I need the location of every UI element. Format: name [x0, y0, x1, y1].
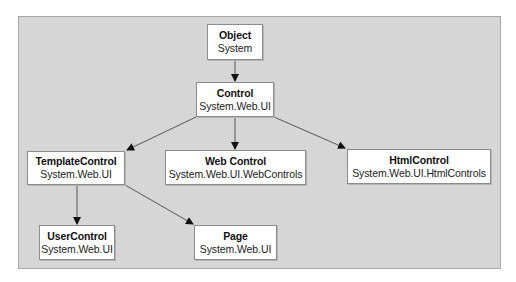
node-namespace: System.Web.UI.HtmlControls — [352, 167, 486, 180]
node-name: TemplateControl — [35, 155, 116, 168]
node-namespace: System.Web.UI — [200, 243, 271, 256]
node-page: Page System.Web.UI — [194, 225, 277, 260]
node-namespace: System.Web.UI — [41, 243, 112, 256]
node-control: Control System.Web.UI — [196, 82, 274, 117]
node-webcontrol: Web Control System.Web.UI.WebControls — [165, 150, 306, 185]
edge-templatecontrol-page — [125, 185, 193, 224]
node-namespace: System.Web.UI — [199, 100, 270, 113]
node-name: Page — [223, 230, 248, 243]
node-templatecontrol: TemplateControl System.Web.UI — [27, 151, 125, 185]
node-namespace: System — [218, 42, 252, 55]
node-htmlcontrol: HtmlControl System.Web.UI.HtmlControls — [347, 149, 491, 184]
node-name: Web Control — [205, 155, 266, 168]
node-name: HtmlControl — [389, 154, 449, 167]
edge-control-templatecontrol — [127, 117, 196, 150]
node-namespace: System.Web.UI — [40, 168, 111, 181]
node-usercontrol: UserControl System.Web.UI — [39, 225, 115, 260]
node-namespace: System.Web.UI.WebControls — [169, 168, 303, 181]
node-name: UserControl — [47, 230, 107, 243]
node-name: Object — [219, 29, 251, 42]
node-object: Object System — [207, 24, 263, 60]
edge-control-htmlcontrol — [274, 117, 345, 148]
node-name: Control — [217, 87, 254, 100]
